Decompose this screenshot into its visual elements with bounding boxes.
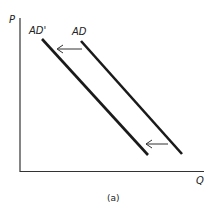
- ad-label: AD: [71, 26, 87, 37]
- y-axis-label: P: [9, 14, 16, 25]
- x-axis-label: Q: [196, 175, 204, 186]
- figure-caption: (a): [107, 193, 120, 203]
- shift-arrow-left-icon: [146, 140, 168, 148]
- ad-shift-diagram: P Q AD' AD (a): [0, 0, 219, 212]
- shift-arrow-left-icon: [57, 45, 82, 53]
- ad-prime-label: AD': [28, 25, 46, 36]
